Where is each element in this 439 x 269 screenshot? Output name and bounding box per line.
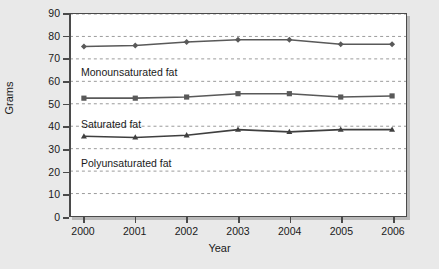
series-label-2: Polyunsaturated fat (81, 157, 171, 169)
y-tick-label-30: 30 (34, 144, 60, 155)
x-axis-tick (290, 217, 292, 223)
x-tick-label-2003: 2003 (215, 226, 261, 237)
series-label-1: Saturated fat (81, 118, 141, 130)
x-tick-label-2000: 2000 (60, 226, 106, 237)
y-axis-line (69, 13, 71, 217)
x-tick-label-2001: 2001 (112, 226, 158, 237)
x-tick-label-2005: 2005 (318, 226, 364, 237)
y-axis-tick-labels: 90 80 70 60 50 40 30 20 10 0 (28, 13, 60, 217)
x-axis-title: Year (0, 242, 439, 254)
chart-screenshot: 90 80 70 60 50 40 30 20 10 0 Grams 20002… (0, 0, 439, 269)
y-tick-label-0: 0 (34, 212, 60, 223)
y-tick-label-60: 60 (34, 76, 60, 87)
x-axis-tick (393, 217, 395, 223)
x-axis-tick (83, 217, 85, 223)
series-label-0: Monounsaturated fat (81, 66, 177, 78)
y-tick-label-50: 50 (34, 98, 60, 109)
x-axis-tick (341, 217, 343, 223)
series-lines (70, 14, 406, 216)
x-tick-label-2004: 2004 (267, 226, 313, 237)
plot-area (69, 13, 407, 217)
y-tick-label-90: 90 (34, 8, 60, 19)
x-axis-tick (135, 217, 137, 223)
x-tick-label-2006: 2006 (370, 226, 416, 237)
x-axis-tick (238, 217, 240, 223)
y-tick-label-80: 80 (34, 30, 60, 41)
y-axis-tick (63, 217, 69, 219)
y-tick-label-10: 10 (34, 189, 60, 200)
y-tick-label-20: 20 (34, 166, 60, 177)
y-tick-label-70: 70 (34, 53, 60, 64)
x-tick-label-2002: 2002 (163, 226, 209, 237)
x-axis-tick (186, 217, 188, 223)
y-axis-title: Grams (3, 82, 15, 115)
y-tick-label-40: 40 (34, 121, 60, 132)
